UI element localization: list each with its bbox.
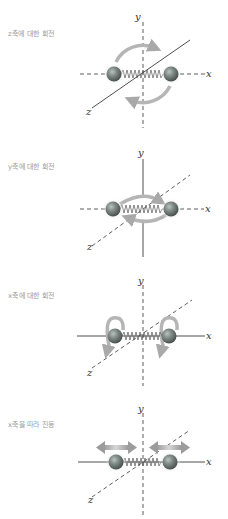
atom-right [164,67,179,82]
panel-rotation-y [80,159,204,257]
panel-rotation-z [80,22,205,128]
atom-left [106,202,121,217]
panel-rotation-x [77,285,205,386]
atom-right [164,202,179,217]
molecule-diagram [0,0,228,519]
panel-vibration-x [78,413,205,515]
atom-left [108,329,123,344]
atom-left [107,67,122,82]
atom-right [162,329,177,344]
atom-right [163,455,178,470]
atom-left [109,455,124,470]
